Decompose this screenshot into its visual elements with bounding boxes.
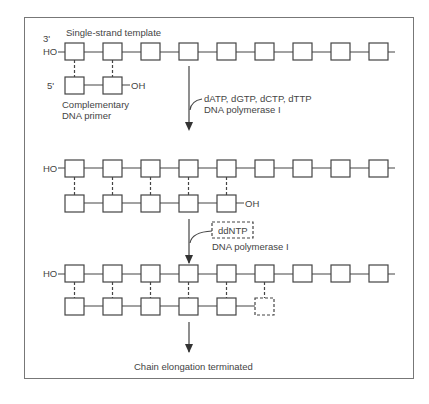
oh-label-stage1: OH xyxy=(131,80,145,91)
polymerase-label-step1: DNA polymerase I xyxy=(204,104,281,115)
primer-label-line1: Complementary xyxy=(62,99,129,110)
arrowhead-step2 xyxy=(185,255,193,264)
oh-label-stage2: OH xyxy=(245,198,259,209)
ho-label-stage3: HO xyxy=(43,268,57,279)
arrowhead-step1 xyxy=(185,122,193,131)
stage1-base-pairs xyxy=(75,60,113,77)
stage1-template-strand xyxy=(58,43,395,60)
dna-sequencing-diagram xyxy=(0,0,429,404)
stage2-template-strand xyxy=(58,160,395,177)
single-strand-template-label: Single-strand template xyxy=(66,27,161,38)
stage1-primer-strand xyxy=(65,77,130,94)
stage3-complement-strand xyxy=(65,298,274,315)
ddntp-label: ddNTP xyxy=(218,225,248,236)
polymerase-label-step2: DNA polymerase I xyxy=(212,241,289,252)
stage2-base-pairs xyxy=(75,177,227,195)
dntp-reagents-label: dATP, dGTP, dCTP, dTTP xyxy=(204,93,312,104)
ho-label-stage1: HO xyxy=(43,46,57,57)
chain-terminated-label: Chain elongation terminated xyxy=(134,361,253,372)
stage2-complement-strand xyxy=(65,195,244,212)
arrowhead-result xyxy=(185,344,193,353)
arrow-step1 xyxy=(189,66,202,128)
arrow-step2 xyxy=(189,219,212,263)
ho-label-stage2: HO xyxy=(43,163,57,174)
five-prime-label: 5' xyxy=(47,80,54,91)
stage3-base-pairs xyxy=(75,282,265,298)
terminator-box xyxy=(255,298,274,315)
primer-label-line2: DNA primer xyxy=(62,110,111,121)
three-prime-label: 3' xyxy=(43,33,50,44)
stage3-template-strand xyxy=(58,265,395,282)
